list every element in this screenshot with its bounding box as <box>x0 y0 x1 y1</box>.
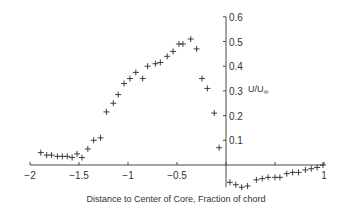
x-tick-label: −0.5 <box>167 170 187 181</box>
data-point-plus-marker <box>74 151 80 157</box>
x-tick-label: 1 <box>321 170 327 181</box>
data-point-plus-marker <box>145 63 151 69</box>
data-point-plus-marker <box>170 48 176 54</box>
x-tick-label: −1.5 <box>69 170 89 181</box>
data-point-plus-marker <box>157 59 163 65</box>
data-point-plus-marker <box>121 80 127 86</box>
x-tick-label: −2 <box>24 170 36 181</box>
x-axis: −2−1.5−1−0.51 <box>24 162 327 181</box>
data-point-plus-marker <box>253 177 259 183</box>
y-tick-label: 0.1 <box>229 135 243 146</box>
data-point-plus-marker <box>277 174 283 180</box>
data-point-plus-marker <box>103 109 109 115</box>
y-tick-label: 0.3 <box>229 86 243 97</box>
y-tick-label: 0.2 <box>229 111 243 122</box>
data-point-plus-marker <box>164 53 170 59</box>
data-point-plus-marker <box>290 169 296 175</box>
data-point-plus-marker <box>188 36 194 42</box>
y-axis: 0.10.20.30.40.50.6 <box>223 12 243 187</box>
data-point-plus-marker <box>85 146 91 152</box>
data-point-plus-marker <box>49 152 55 158</box>
data-point-plus-marker <box>211 110 217 116</box>
y-tick-label: 0.6 <box>229 12 243 23</box>
data-point-plus-marker <box>199 76 205 82</box>
data-point-plus-marker <box>110 100 116 106</box>
data-point-plus-marker <box>233 182 239 188</box>
data-point-plus-marker <box>216 145 222 151</box>
data-point-plus-marker <box>115 92 121 98</box>
data-point-plus-marker <box>140 76 146 82</box>
x-tick-label: −1 <box>122 170 134 181</box>
data-point-plus-marker <box>245 183 251 189</box>
data-point-plus-marker <box>127 76 133 82</box>
data-point-plus-marker <box>38 150 44 156</box>
data-point-plus-marker <box>320 162 326 168</box>
data-point-plus-marker <box>259 176 265 182</box>
y-axis-title-main: U/U <box>248 84 264 94</box>
data-point-plus-marker <box>152 61 158 67</box>
data-point-plus-marker <box>180 41 186 47</box>
data-markers <box>38 36 326 190</box>
y-axis-title: U/U∞ <box>248 84 269 95</box>
x-axis-title: Distance to Center of Core, Fraction of … <box>86 194 265 204</box>
scatter-chart: −2−1.5−1−0.51 0.10.20.30.40.50.6 U/U∞ Di… <box>0 0 343 210</box>
data-point-plus-marker <box>204 85 210 91</box>
data-point-plus-marker <box>194 46 200 52</box>
data-point-plus-marker <box>91 137 97 143</box>
y-axis-title-subscript: ∞ <box>264 88 269 95</box>
data-point-plus-marker <box>265 174 271 180</box>
data-point-plus-marker <box>296 169 302 175</box>
data-point-plus-marker <box>98 135 104 141</box>
data-point-plus-marker <box>227 179 233 185</box>
data-point-plus-marker <box>284 171 290 177</box>
data-point-plus-marker <box>79 155 85 161</box>
data-point-plus-marker <box>308 166 314 172</box>
y-tick-label: 0.5 <box>229 37 243 48</box>
data-point-plus-marker <box>64 153 70 159</box>
data-point-plus-marker <box>239 184 245 190</box>
data-point-plus-marker <box>69 155 75 161</box>
data-point-plus-marker <box>302 167 308 173</box>
data-point-plus-marker <box>133 69 139 75</box>
y-tick-label: 0.4 <box>229 61 243 72</box>
